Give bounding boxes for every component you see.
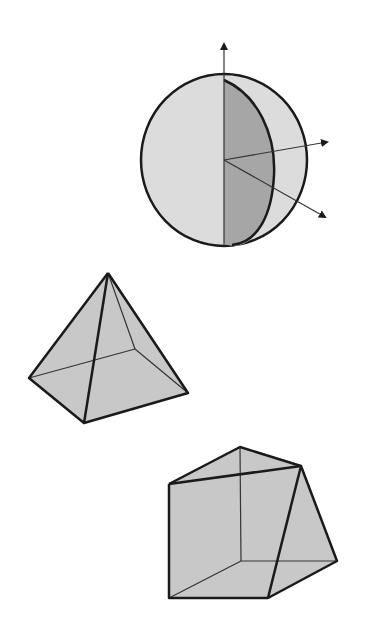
triangular-prism (169, 447, 337, 598)
square-pyramid (29, 273, 188, 423)
sphere (141, 44, 327, 246)
geometric-solids-diagram (0, 0, 367, 623)
